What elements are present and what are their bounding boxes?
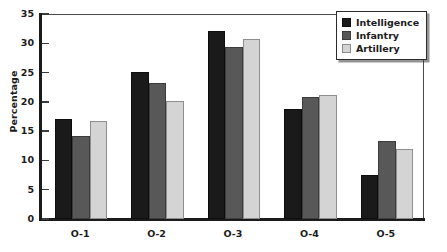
legend-label: Intelligence [356, 17, 419, 28]
bar [90, 121, 108, 219]
bar [72, 136, 90, 219]
bar [149, 83, 167, 219]
legend-swatch-icon [342, 44, 351, 53]
y-axis-tick-label: 0 [0, 213, 34, 224]
y-axis-tick-label: 35 [0, 8, 34, 19]
bar-chart: Percentage 05101520253035 O-1O-2O-3O-4O-… [0, 0, 447, 252]
legend-label: Infantry [356, 30, 399, 41]
y-axis-tick-label: 30 [0, 37, 34, 48]
y-axis-tick-label: 5 [0, 184, 34, 195]
legend-swatch-icon [342, 18, 351, 27]
x-axis-tick-label: O-2 [118, 228, 194, 239]
x-axis-tick-label: O-4 [271, 228, 347, 239]
x-axis-tick-label: O-1 [42, 228, 118, 239]
bar-group [131, 14, 184, 219]
bar [319, 95, 337, 219]
bar [284, 109, 302, 219]
bar [55, 119, 73, 219]
bar [396, 149, 414, 219]
bar [243, 39, 261, 219]
bar [208, 31, 226, 219]
y-axis-tick-label: 10 [0, 154, 34, 165]
x-axis-tick-label: O-3 [195, 228, 271, 239]
y-axis-tick-label: 20 [0, 96, 34, 107]
bar [166, 101, 184, 219]
bar [225, 47, 243, 219]
bar [361, 175, 379, 220]
legend-item: Artillery [342, 42, 419, 55]
legend-item: Intelligence [342, 16, 419, 29]
legend-label: Artillery [356, 43, 400, 54]
y-axis-tick-label: 15 [0, 125, 34, 136]
x-axis-tick-label: O-5 [348, 228, 424, 239]
legend-swatch-icon [342, 31, 351, 40]
y-axis-tick-label: 25 [0, 67, 34, 78]
legend-item: Infantry [342, 29, 419, 42]
chart-legend: IntelligenceInfantryArtillery [336, 11, 427, 60]
bar-group [284, 14, 337, 219]
bar-group [55, 14, 108, 219]
bar [302, 97, 320, 219]
bar-group [208, 14, 261, 219]
bar [378, 141, 396, 219]
bar [131, 72, 149, 219]
